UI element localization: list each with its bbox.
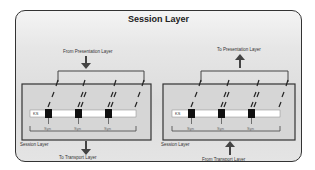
right-top-label: To Presentation Layer (217, 47, 261, 52)
right-up-arrow-bottom-icon (225, 141, 235, 155)
left-down-arrow-icon (81, 56, 91, 69)
right-bar-label: KS (175, 111, 180, 116)
right-sync-label-1: Syn (187, 126, 194, 131)
right-sync-label-3: Syn (247, 126, 254, 131)
left-sync-point-2 (75, 109, 82, 118)
left-sync-point-1 (45, 109, 52, 118)
right-sync-point-3 (248, 109, 255, 118)
right-box-label: Session Layer (161, 142, 190, 147)
left-box-label: Session Layer (20, 142, 49, 147)
right-bottom-label: From Transport Layer (202, 157, 245, 162)
left-sync-label-3: Syn (104, 126, 111, 131)
left-down-arrow-bottom-icon (81, 141, 91, 155)
left-sync-point-3 (105, 109, 112, 118)
right-up-arrow-icon (235, 54, 245, 68)
right-sync-point-1 (188, 109, 195, 118)
left-sync-label-2: Syn (74, 126, 81, 131)
left-bar-label: KS (33, 111, 38, 116)
left-top-label: From Presentation Layer (63, 49, 113, 54)
right-sync-label-2: Syn (217, 126, 224, 131)
left-sync-label-1: Syn (44, 126, 51, 131)
right-sync-point-2 (218, 109, 225, 118)
left-bottom-label: To Transport Layer (59, 155, 97, 160)
